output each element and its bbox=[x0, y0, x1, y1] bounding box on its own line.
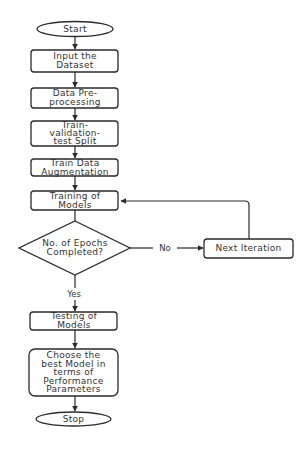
edge-label-no: No bbox=[159, 243, 171, 253]
node-decision-label-2: Completed? bbox=[47, 247, 104, 257]
node-training-label-2: Models bbox=[58, 200, 92, 210]
node-augmentation: Train Data Augmentation bbox=[31, 158, 118, 177]
node-input: Input the Dataset bbox=[31, 50, 118, 72]
node-decision: No. of Epochs Completed? bbox=[19, 221, 130, 275]
node-training: Training of Models bbox=[31, 191, 118, 211]
node-start-label: Start bbox=[63, 24, 87, 34]
node-split: Train- validation- test Split bbox=[31, 120, 118, 146]
node-preprocessing: Data Pre- processing bbox=[31, 88, 118, 108]
node-augment-label-2: Augmentation bbox=[41, 167, 108, 177]
node-testing-label-2: Models bbox=[57, 320, 91, 330]
edge-label-yes: Yes bbox=[66, 289, 81, 299]
node-next-label: Next Iteration bbox=[215, 243, 281, 253]
arrow-next-training-loop bbox=[121, 201, 249, 239]
node-choose-label-5: Parameters bbox=[46, 384, 101, 394]
node-next-iteration: Next Iteration bbox=[204, 239, 293, 258]
node-split-label-3: test Split bbox=[53, 136, 96, 146]
node-stop: Stop bbox=[36, 412, 111, 426]
node-input-label-2: Dataset bbox=[56, 60, 94, 70]
node-testing: Testing of Models bbox=[30, 311, 117, 330]
node-stop-label: Stop bbox=[63, 414, 85, 424]
flowchart: Start Input the Dataset Data Pre- proces… bbox=[0, 0, 305, 450]
node-start: Start bbox=[37, 22, 113, 37]
node-preproc-label-2: processing bbox=[49, 97, 101, 107]
node-choose-best: Choose the best Model in terms of Perfor… bbox=[29, 349, 118, 396]
